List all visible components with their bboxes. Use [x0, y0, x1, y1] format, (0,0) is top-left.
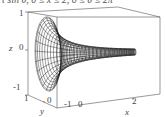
x-axis-label: x — [124, 107, 129, 117]
surface-plot: 1 0 -1 1 0 -1 0 2 z y x — [0, 0, 165, 117]
mesh-generator — [50, 18, 135, 49]
y-tick-0: 0 — [47, 95, 52, 105]
mesh-generator — [53, 22, 135, 50]
mesh-generator — [43, 19, 135, 49]
box-edge — [28, 12, 57, 17]
mesh-generator — [46, 17, 135, 49]
mesh-generator — [50, 55, 135, 91]
x-tick-0: 0 — [78, 99, 83, 109]
z-tick-neg1: -1 — [13, 82, 21, 92]
box-edge — [118, 7, 160, 17]
z-tick-0: 0 — [19, 42, 24, 52]
surface-mesh — [35, 17, 136, 91]
y-tick-1: 1 — [24, 93, 29, 103]
y-axis-label: y — [39, 106, 44, 116]
z-axis-label: z — [8, 43, 13, 53]
box-edge — [28, 7, 118, 12]
box-edge — [57, 94, 160, 108]
mesh-generator — [35, 51, 134, 53]
y-tick-neg1: -1 — [64, 99, 72, 109]
x-tick-2: 2 — [132, 96, 137, 106]
z-tick-1: 1 — [19, 8, 24, 18]
